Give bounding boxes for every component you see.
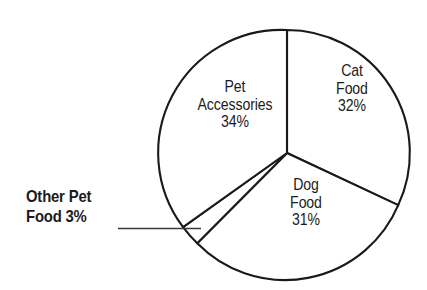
pie-label-pet-accessories: Pet Accessories 34% bbox=[180, 78, 289, 131]
pie-callout-other-pet-food-line2: Food 3% bbox=[26, 206, 112, 226]
pie-label-cat-food-line2: Food bbox=[317, 80, 387, 98]
pie-label-cat-food: Cat Food 32% bbox=[317, 62, 387, 115]
pie-chart-graphic bbox=[0, 0, 427, 290]
pie-label-pet-accessories-value: 34% bbox=[180, 113, 289, 131]
pie-label-pet-accessories-line1: Pet bbox=[180, 78, 289, 96]
pie-label-dog-food-value: 31% bbox=[273, 211, 340, 229]
pie-callout-other-pet-food-line1: Other Pet bbox=[26, 186, 112, 206]
pie-callout-label-other-pet-food: Other Pet Food 3% bbox=[26, 186, 112, 226]
pie-label-dog-food-line1: Dog bbox=[273, 176, 340, 194]
pie-chart: Cat Food 32% Pet Accessories 34% Dog Foo… bbox=[0, 0, 427, 290]
pie-label-dog-food: Dog Food 31% bbox=[273, 176, 340, 229]
pie-label-dog-food-line2: Food bbox=[273, 194, 340, 212]
pie-label-pet-accessories-line2: Accessories bbox=[180, 96, 289, 114]
pie-label-cat-food-value: 32% bbox=[317, 97, 387, 115]
pie-label-cat-food-line1: Cat bbox=[317, 62, 387, 80]
